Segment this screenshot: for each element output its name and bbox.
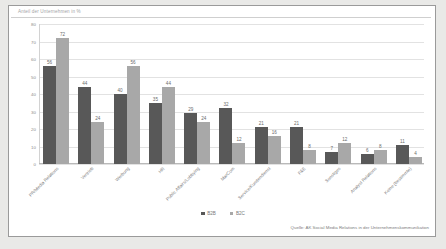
bar-value-label: 32 [223, 102, 228, 107]
bar-b2b[interactable]: 11 [396, 24, 409, 164]
bar-b2b[interactable]: 56 [43, 24, 56, 164]
bar-b2b[interactable]: 29 [184, 24, 197, 164]
bar-b2b[interactable]: 32 [219, 24, 232, 164]
bar-b2b[interactable]: 35 [149, 24, 162, 164]
bar-value-label: 29 [188, 107, 193, 112]
bar-rect [78, 87, 91, 164]
y-axis-tick-label: 60 [31, 57, 36, 62]
bar-rect [91, 122, 104, 164]
bar-value-label: 72 [60, 32, 65, 37]
bar-b2c[interactable]: 56 [127, 24, 140, 164]
bar-rect [325, 152, 338, 164]
bar-value-label: 44 [166, 81, 171, 86]
bar-b2c[interactable]: 12 [338, 24, 351, 164]
y-axis-tick-label: 40 [31, 92, 36, 97]
x-axis-category-label: Werbung [114, 166, 130, 182]
y-axis-tick-label: 10 [31, 144, 36, 149]
x-axis-category-label: MarCom [220, 166, 236, 182]
bar-b2c[interactable]: 44 [162, 24, 175, 164]
bar-value-label: 7 [331, 146, 334, 151]
legend-swatch-icon [230, 212, 234, 216]
bar-rect [43, 66, 56, 164]
bar-rect [290, 127, 303, 164]
bar-b2c[interactable]: 72 [56, 24, 69, 164]
x-axis-category-label: F&E [297, 166, 307, 176]
bar-b2c[interactable]: 16 [268, 24, 281, 164]
bar-rect [255, 127, 268, 164]
bar-group: 3544 [149, 24, 175, 164]
bar-b2c[interactable]: 8 [374, 24, 387, 164]
bar-rect [374, 150, 387, 164]
x-axis-category-label: Keine (bestimmte) [383, 166, 412, 195]
bar-value-label: 6 [366, 148, 369, 153]
bar-b2c[interactable]: 24 [91, 24, 104, 164]
bar-group: 2924 [184, 24, 210, 164]
bar-rect [219, 108, 232, 164]
x-axis-category-label: Service/Kundendienst [237, 166, 271, 200]
y-axis-tick-label: 50 [31, 74, 36, 79]
bar-value-label: 44 [82, 81, 87, 86]
bar-group: 4424 [78, 24, 104, 164]
chart-legend: B2BB2C [9, 211, 437, 216]
bar-rect [149, 103, 162, 164]
title-divider [11, 17, 431, 18]
bar-b2b[interactable]: 40 [114, 24, 127, 164]
bar-value-label: 12 [236, 137, 241, 142]
bar-rect [184, 113, 197, 164]
bar-value-label: 56 [131, 60, 136, 65]
legend-label: B2B [207, 211, 216, 216]
bar-value-label: 8 [308, 144, 311, 149]
x-axis-category-label: HR [157, 166, 165, 174]
x-axis-category-label: Public Affairs/Lobbying [165, 166, 201, 202]
bar-group: 4056 [114, 24, 140, 164]
y-axis-tick-label: 20 [31, 127, 36, 132]
legend-swatch-icon [201, 212, 205, 216]
bar-b2b[interactable]: 44 [78, 24, 91, 164]
plot-area: 01020304050607080 5672442440563544292432… [39, 24, 424, 164]
bar-b2c[interactable]: 4 [409, 24, 422, 164]
legend-item-b2c[interactable]: B2C [230, 211, 245, 216]
slide-page: Anteil der Unternehmen in % 010203040506… [0, 0, 446, 249]
bar-groups: 567244244056354429243212211621871268114 [39, 24, 424, 164]
bar-value-label: 21 [294, 121, 299, 126]
bar-group: 5672 [43, 24, 69, 164]
source-note: Quelle: AK Social Media Relations in der… [291, 225, 429, 230]
bar-b2c[interactable]: 12 [232, 24, 245, 164]
bar-b2b[interactable]: 21 [255, 24, 268, 164]
bar-value-label: 56 [47, 60, 52, 65]
bar-rect [268, 136, 281, 164]
legend-label: B2C [236, 211, 245, 216]
bar-rect [232, 143, 245, 164]
bar-rect [127, 66, 140, 164]
x-axis-category-label: Sonstiges [324, 166, 342, 184]
chart-title: Anteil der Unternehmen in % [18, 9, 81, 14]
chart-frame: Anteil der Unternehmen in % 010203040506… [8, 5, 436, 237]
y-axis-tick-label: 0 [34, 162, 36, 167]
bar-b2b[interactable]: 21 [290, 24, 303, 164]
bar-group: 2116 [255, 24, 281, 164]
bar-value-label: 4 [414, 151, 417, 156]
bar-b2c[interactable]: 8 [303, 24, 316, 164]
bar-value-label: 8 [379, 144, 382, 149]
y-axis-tick-label: 80 [31, 22, 36, 27]
bar-rect [338, 143, 351, 164]
bar-value-label: 11 [400, 139, 405, 144]
bar-group: 218 [290, 24, 316, 164]
bar-rect [56, 38, 69, 164]
bar-group: 68 [361, 24, 387, 164]
bar-rect [409, 157, 422, 164]
x-axis-category-label: Analyst Relations [349, 166, 377, 194]
legend-item-b2b[interactable]: B2B [201, 211, 216, 216]
bar-b2c[interactable]: 24 [197, 24, 210, 164]
bar-rect [303, 150, 316, 164]
bar-b2b[interactable]: 7 [325, 24, 338, 164]
bar-value-label: 16 [272, 130, 277, 135]
bar-value-label: 40 [118, 88, 123, 93]
bar-group: 712 [325, 24, 351, 164]
bar-group: 3212 [219, 24, 245, 164]
x-axis-category-label: Vertrieb [80, 166, 95, 181]
bar-b2b[interactable]: 6 [361, 24, 374, 164]
bar-rect [114, 94, 127, 164]
bar-rect [162, 87, 175, 164]
bar-rect [361, 154, 374, 165]
